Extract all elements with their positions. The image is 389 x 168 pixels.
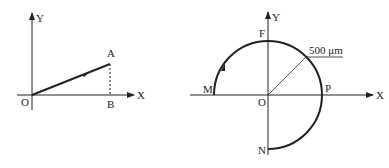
point-n-label: N xyxy=(258,144,266,156)
left-diagram: Y X O A B xyxy=(17,12,145,110)
point-b-label: B xyxy=(107,98,114,110)
diagram-canvas: Y X O A B Y X O F M P N 500 μm xyxy=(0,0,389,168)
radius-line xyxy=(268,57,306,95)
point-m-label: M xyxy=(203,83,213,95)
right-x-label: X xyxy=(376,89,384,101)
radius-label: 500 μm xyxy=(309,44,343,56)
left-origin-label: O xyxy=(21,96,29,108)
point-p-label: P xyxy=(325,82,331,94)
point-a-label: A xyxy=(107,47,115,59)
vector-oa xyxy=(32,64,110,95)
right-y-label: Y xyxy=(272,11,280,23)
left-y-label: Y xyxy=(36,12,44,24)
right-diagram: Y X O F M P N 500 μm xyxy=(190,11,384,156)
point-f-label: F xyxy=(259,27,265,39)
right-origin-label: O xyxy=(258,96,266,108)
left-x-label: X xyxy=(137,89,145,101)
